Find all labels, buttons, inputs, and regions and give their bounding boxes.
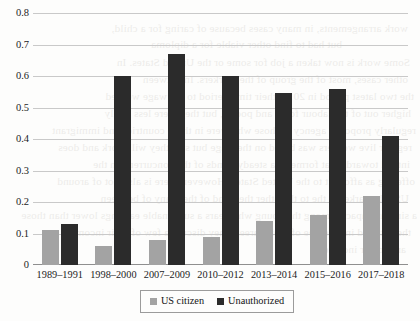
bar-us-citizen xyxy=(42,230,59,265)
legend-item-unauthorized: Unauthorized xyxy=(217,296,284,306)
y-tick-label: 0.7 xyxy=(16,39,29,50)
bar-unauthorized xyxy=(114,76,131,265)
x-tick-label: 2015–2016 xyxy=(301,267,355,283)
y-tick-label: 0.5 xyxy=(16,102,29,113)
x-tick-label: 2017–2018 xyxy=(354,267,408,283)
bar-group xyxy=(140,13,194,265)
y-tick-label: 0 xyxy=(24,260,29,271)
legend-item-us-citizen: US citizen xyxy=(150,296,204,306)
x-tick-label: 2013–2014 xyxy=(247,267,301,283)
y-tick-label: 0.8 xyxy=(16,8,29,19)
x-tick-label: 2010–2012 xyxy=(194,267,248,283)
plot-area xyxy=(33,13,408,265)
bar-unauthorized xyxy=(168,54,185,265)
chart-legend: US citizen Unauthorized xyxy=(140,290,294,313)
x-tick-label: 1998–2000 xyxy=(87,267,141,283)
bar-us-citizen xyxy=(256,221,273,265)
x-tick-label: 2007–2009 xyxy=(140,267,194,283)
bar-unauthorized xyxy=(382,136,399,265)
bar-groups xyxy=(33,13,408,265)
bar-us-citizen xyxy=(149,240,166,265)
bar-us-citizen xyxy=(203,237,220,265)
legend-label: US citizen xyxy=(161,296,204,306)
bar-group xyxy=(354,13,408,265)
bar-group xyxy=(301,13,355,265)
bar-us-citizen xyxy=(310,215,327,265)
bar-us-citizen xyxy=(363,196,380,265)
y-axis-labels: 0.8 0.7 0.6 0.5 0.4 0.3 0.2 0.1 0 xyxy=(0,0,33,275)
bar-chart-figure: work arrangements, in many cases because… xyxy=(0,0,420,321)
bar-group xyxy=(87,13,141,265)
bar-us-citizen xyxy=(95,246,112,265)
bar-group xyxy=(194,13,248,265)
bar-unauthorized xyxy=(222,76,239,265)
legend-label: Unauthorized xyxy=(228,296,284,306)
y-tick-label: 0.6 xyxy=(16,71,29,82)
bar-unauthorized xyxy=(329,89,346,265)
x-axis-labels: 1989–1991 1998–2000 2007–2009 2010–2012 … xyxy=(33,267,408,283)
gray-square-icon xyxy=(150,298,157,305)
y-tick-label: 0.4 xyxy=(16,134,29,145)
y-tick-label: 0.1 xyxy=(16,228,29,239)
black-square-icon xyxy=(217,298,224,305)
y-tick-label: 0.2 xyxy=(16,197,29,208)
bar-unauthorized xyxy=(61,224,78,265)
bar-group xyxy=(33,13,87,265)
x-tick-label: 1989–1991 xyxy=(33,267,87,283)
y-tick-label: 0.3 xyxy=(16,165,29,176)
bar-group xyxy=(247,13,301,265)
bar-unauthorized xyxy=(275,93,292,265)
